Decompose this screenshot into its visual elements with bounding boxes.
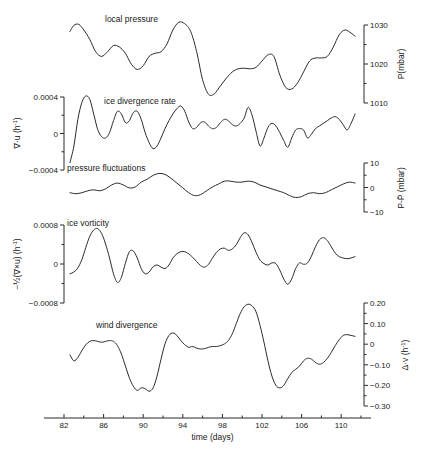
axis-title-local-pressure: P(mbar) xyxy=(396,48,406,79)
axis-title-ice-divergence-rate: ∇·u (h-1) xyxy=(12,117,22,150)
axis-wind-divergence-tick-label: 0.10 xyxy=(370,320,386,329)
svg-text:Δ·v (h-1): Δ·v (h-1) xyxy=(400,339,410,370)
xaxis-tick-label: 94 xyxy=(178,421,187,430)
axis-wind-divergence-tick-label: 0.20 xyxy=(370,299,386,308)
axis-title-ice-vorticity: −½(∇×u) (h-1) xyxy=(12,238,22,289)
axis-wind-divergence-tick-label: 0 xyxy=(370,340,375,349)
axis-wind-divergence-tick-label: −0.30 xyxy=(370,402,391,411)
xaxis-tick-label: 86 xyxy=(99,421,108,430)
svg-text:−½(∇×u) (h-1): −½(∇×u) (h-1) xyxy=(12,238,22,289)
axis-wind-divergence-tick-label: −0.10 xyxy=(370,361,391,370)
figure-canvas: 103010201010P(mbar)0.00040−0.0004∇·u (h-… xyxy=(0,0,431,457)
scientific-figure: 103010201010P(mbar)0.00040−0.0004∇·u (h-… xyxy=(0,0,431,457)
curve-label-ice-vorticity: ice vorticity xyxy=(67,218,109,228)
xaxis-tick-label: 90 xyxy=(139,421,148,430)
curve-label-wind-divergence: wind divergence xyxy=(96,320,157,330)
xaxis-title: time (days) xyxy=(191,432,233,442)
axis-wind-divergence-tick-label: −0.20 xyxy=(370,381,391,390)
curve-label-pressure-fluctuations: pressure fluctuations xyxy=(67,163,145,173)
curve-label-ice-divergence-rate: ice divergence rate xyxy=(104,96,176,106)
axis-ice-vorticity-tick-label: 0.0008 xyxy=(34,221,59,230)
xaxis-tick-label: 106 xyxy=(295,421,309,430)
axis-pressure-fluctuations-tick-label: −10 xyxy=(370,208,384,217)
axis-ice-divergence-rate-tick-label: −0.0004 xyxy=(29,166,59,175)
axis-pressure-fluctuations-tick-label: 0 xyxy=(370,184,375,193)
curve-wind-divergence xyxy=(70,304,355,391)
curve-label-local-pressure: local pressure xyxy=(105,14,158,24)
axis-ice-vorticity-tick-label: 0 xyxy=(54,260,59,269)
svg-text:∇·u (h-1): ∇·u (h-1) xyxy=(12,117,22,150)
xaxis-tick-label: 110 xyxy=(335,421,348,430)
axis-ice-vorticity-tick-label: −0.0008 xyxy=(29,299,59,308)
xaxis-tick-label: 102 xyxy=(255,421,269,430)
axis-ice-divergence-rate-tick-label: 0 xyxy=(54,130,59,139)
xaxis-tick-label: 82 xyxy=(60,421,69,430)
xaxis-tick-label: 98 xyxy=(218,421,227,430)
axis-pressure-fluctuations-tick-label: 10 xyxy=(370,159,379,168)
curve-local-pressure xyxy=(70,22,355,96)
axis-title-pressure-fluctuations: P-P̄ (mbar) xyxy=(396,167,406,209)
axis-local-pressure-tick-label: 1010 xyxy=(370,99,388,108)
curve-ice-vorticity xyxy=(70,228,355,284)
axis-local-pressure-tick-label: 1020 xyxy=(370,60,388,69)
axis-title-wind-divergence: Δ·v (h-1) xyxy=(400,339,410,370)
curve-pressure-fluctuations xyxy=(70,173,355,197)
axis-ice-divergence-rate-tick-label: 0.0004 xyxy=(34,93,59,102)
axis-local-pressure-tick-label: 1030 xyxy=(370,21,388,30)
